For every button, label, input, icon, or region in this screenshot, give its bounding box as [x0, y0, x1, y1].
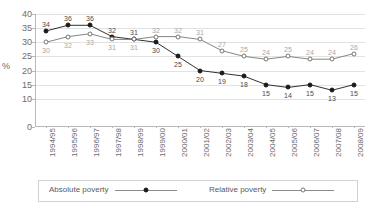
y-axis-tick-label: 35: [2, 24, 32, 33]
open-circle-icon: [301, 188, 306, 193]
x-axis-tick-mark: [68, 126, 69, 128]
x-axis-tick-label: 2003/04: [247, 128, 255, 157]
gridline: [36, 71, 365, 72]
gridline: [36, 28, 365, 29]
x-axis-tick-mark: [354, 126, 355, 128]
x-axis-tick-mark: [156, 126, 157, 128]
x-axis: 1994/951995/961996/971997/981998/991999/…: [35, 128, 365, 180]
y-axis-tick-label: 30: [2, 38, 32, 47]
x-axis-tick-mark: [266, 126, 267, 128]
gridline: [36, 42, 365, 43]
legend-line: [272, 190, 334, 191]
legend-label: Relative poverty: [209, 186, 266, 194]
gridline: [36, 99, 365, 100]
x-axis-tick-label: 2000/01: [181, 128, 189, 157]
y-axis-tick-label: 25: [2, 52, 32, 61]
y-axis-title: %: [2, 62, 10, 71]
poverty-trend-chart: 403530252015100 % 1994/951995/961996/971…: [0, 0, 377, 205]
x-axis-tick-mark: [134, 126, 135, 128]
legend-entry-relative-poverty[interactable]: Relative poverty: [209, 186, 334, 194]
x-axis-tick-label: 2005/06: [291, 128, 299, 157]
y-axis-tick-label: 15: [2, 80, 32, 89]
x-axis-tick-mark: [46, 126, 47, 128]
legend-line: [115, 190, 177, 191]
gridline: [36, 85, 365, 86]
x-axis-tick-label: 2006/07: [313, 128, 321, 157]
x-axis-tick-mark: [222, 126, 223, 128]
legend-entry-absolute-poverty[interactable]: Absolute poverty: [49, 186, 177, 194]
x-axis-tick-label: 2002/03: [225, 128, 233, 157]
gridline: [36, 56, 365, 57]
x-axis-tick-label: 1995/96: [71, 128, 79, 157]
x-axis-tick-label: 1998/99: [137, 128, 145, 157]
x-axis-tick-mark: [332, 126, 333, 128]
gridline: [36, 14, 365, 15]
x-axis-tick-mark: [200, 126, 201, 128]
legend-label: Absolute poverty: [49, 186, 109, 194]
x-axis-tick-mark: [90, 126, 91, 128]
x-axis-tick-label: 2001/02: [203, 128, 211, 157]
x-axis-tick-label: 1999/00: [159, 128, 167, 157]
x-axis-tick-mark: [244, 126, 245, 128]
x-axis-tick-mark: [178, 126, 179, 128]
filled-circle-icon: [143, 188, 148, 193]
x-axis-tick-label: 2007/08: [335, 128, 343, 157]
x-axis-tick-mark: [112, 126, 113, 128]
y-axis-tick-label: 40: [2, 10, 32, 19]
x-axis-tick-mark: [310, 126, 311, 128]
x-axis-tick-label: 1996/97: [93, 128, 101, 157]
plot-area: [35, 14, 365, 127]
y-axis-tick-label: 10: [2, 94, 32, 103]
x-axis-tick-label: 2008/09: [357, 128, 365, 157]
x-axis-tick-label: 1994/95: [49, 128, 57, 157]
x-axis-tick-label: 1997/98: [115, 128, 123, 157]
x-axis-tick-label: 2004/05: [269, 128, 277, 157]
x-axis-tick-mark: [288, 126, 289, 128]
y-axis-tick-label: 0: [2, 123, 32, 132]
chart-legend: Absolute povertyRelative poverty: [38, 180, 358, 202]
